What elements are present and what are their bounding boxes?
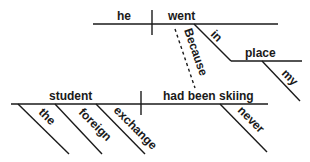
modifier-never: never (235, 103, 268, 136)
object-modifier: my (279, 66, 301, 88)
sub-subject: he (117, 9, 131, 23)
modifier-foreign: foreign (76, 105, 115, 144)
main-subject: student (49, 89, 92, 103)
sub-verb: went (167, 9, 195, 23)
preposition: in (208, 27, 225, 44)
main-verb: had been skiing (163, 89, 254, 103)
sentence-diagram: he went in place my Because student had … (0, 0, 310, 162)
conjunction: Because (181, 26, 210, 78)
object-of-preposition: place (245, 46, 276, 60)
